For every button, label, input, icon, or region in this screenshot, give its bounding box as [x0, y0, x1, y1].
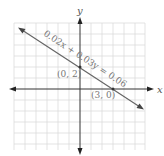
y-intercept-label: (0, 2) — [57, 69, 81, 79]
y-axis — [78, 17, 83, 155]
x-axis-label: x — [157, 84, 163, 95]
x-axis — [9, 87, 154, 92]
equation-label: 0.02x + 0.03y = 0.06 — [42, 28, 129, 89]
coordinate-plane: y x 0.02x + 0.03y = 0.06 (0, 2) (3, 0) — [0, 0, 164, 156]
x-intercept-label: (3, 0) — [91, 90, 115, 100]
y-axis-label: y — [76, 5, 83, 16]
